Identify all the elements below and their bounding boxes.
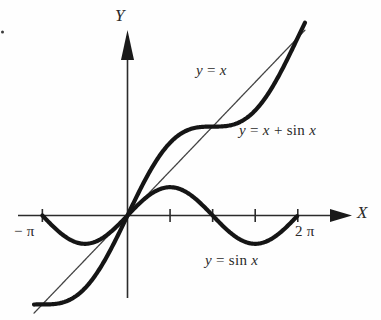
y-axis-arrow-icon (121, 30, 134, 60)
curve-label-rhs: x (263, 122, 270, 138)
curve-label-operator: = (250, 122, 259, 138)
curve-label-argument: x (309, 122, 316, 138)
axes-group (18, 30, 352, 298)
curve-label-function: sin (229, 252, 247, 268)
curve-label-lhs: y (205, 252, 212, 268)
curve-label-y-equals-sin-x: y = sin x (205, 252, 258, 269)
curve-label-operator: = (207, 62, 216, 78)
curve-label-rhs: x (220, 62, 227, 78)
curve-label-plus: + (274, 122, 283, 138)
curve-label-lhs: y (239, 122, 246, 138)
curve-label-y-equals-x-plus-sin-x: y = x + sin x (239, 122, 316, 139)
plot-area (0, 0, 381, 320)
y-axis-label: Y (115, 6, 125, 26)
curve-label-operator: = (216, 252, 225, 268)
curve-label-lhs: y (196, 62, 203, 78)
curve-label-function: sin (287, 122, 305, 138)
curve-y-equals-x (34, 30, 305, 313)
curve-y-equals-x-plus-sin-x (34, 23, 305, 305)
scan-speck-artifact (1, 31, 4, 34)
curves-group (34, 23, 305, 313)
x-axis-arrow-icon (330, 209, 352, 222)
curve-label-argument: x (251, 252, 258, 268)
figure-graph-trigonometric-sum: Y X − π 2 π y = x y = x + sin x y = sin … (0, 0, 381, 320)
curve-label-y-equals-x: y = x (196, 62, 227, 79)
x-tick-label-two-pi: 2 π (295, 223, 315, 240)
x-axis-label: X (357, 203, 368, 223)
x-tick-label-neg-pi: − π (14, 223, 35, 240)
